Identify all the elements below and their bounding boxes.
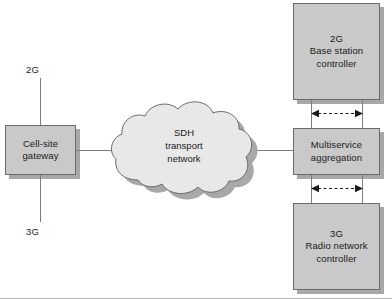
rnc-3g-label-line2: Radio network — [305, 240, 367, 251]
node-2g-base-station-controller[interactable]: 2G Base station controller — [293, 3, 380, 100]
multiservice-aggregation-label: Multiservice aggregation — [294, 139, 379, 164]
node-multiservice-aggregation[interactable]: Multiservice aggregation — [293, 128, 380, 175]
endpoint-label-3g: 3G — [26, 226, 39, 237]
sdh-cloud-label-line3: network — [167, 153, 200, 164]
cell-site-gateway-label-line1: Cell-site — [23, 138, 58, 149]
rnc-3g-label: 3G Radio network controller — [294, 228, 379, 266]
node-3g-radio-network-controller[interactable]: 3G Radio network controller — [293, 203, 380, 290]
bsc-2g-label-line1: 2G — [330, 33, 343, 44]
bsc-2g-label-line2: Base station — [310, 45, 363, 56]
connector-3g-to-gateway — [40, 175, 41, 222]
node-cell-site-gateway[interactable]: Cell-site gateway — [5, 125, 76, 175]
endpoint-label-2g: 2G — [26, 64, 39, 75]
cell-site-gateway-label: Cell-site gateway — [6, 138, 75, 163]
bidirectional-arrow-bsc-multiservice-icon — [311, 109, 363, 118]
bsc-2g-label-line3: controller — [316, 58, 356, 69]
connector-2g-to-gateway — [40, 78, 41, 125]
bsc-2g-label: 2G Base station controller — [294, 33, 379, 71]
multiservice-aggregation-label-line1: Multiservice — [311, 139, 362, 150]
rnc-3g-label-line3: controller — [316, 253, 356, 264]
rnc-3g-label-line1: 3G — [330, 228, 343, 239]
bidirectional-arrow-multiservice-rnc-icon — [311, 184, 363, 193]
sdh-cloud-label-line2: transport — [165, 140, 203, 151]
network-diagram-canvas: SDH transport network Cell-site gateway … — [0, 0, 392, 299]
sdh-cloud-label-line1: SDH — [174, 127, 194, 138]
cell-site-gateway-label-line2: gateway — [22, 150, 58, 161]
connector-cloud-to-multiservice — [255, 150, 293, 151]
multiservice-aggregation-label-line2: aggregation — [311, 152, 362, 163]
sdh-cloud-label: SDH transport network — [108, 126, 260, 165]
